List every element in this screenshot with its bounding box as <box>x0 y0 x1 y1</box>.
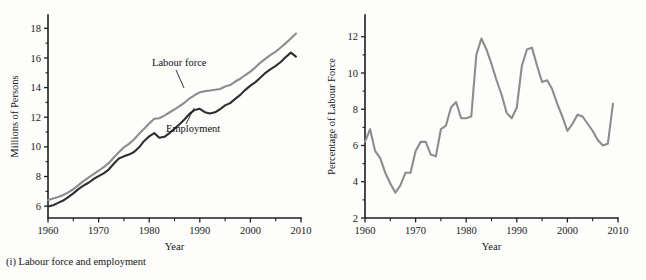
y-tick-label: 12 <box>348 31 359 42</box>
y-tick-label: 8 <box>36 171 41 182</box>
x-tick-label: 2000 <box>240 225 261 236</box>
x-tick-label: 1990 <box>189 225 210 236</box>
unemployment-rate-plot: 24681012196019701980199020002010YearPerc… <box>323 0 646 280</box>
chart-panel-unemployment-rate: 24681012196019701980199020002010YearPerc… <box>323 0 646 280</box>
axis-frame <box>48 15 301 218</box>
x-tick-label: 2000 <box>557 225 578 236</box>
x-tick-label: 1960 <box>355 225 376 236</box>
two-panel-figure: 681012141618196019701980199020002010Year… <box>0 0 646 280</box>
y-tick-label: 12 <box>31 112 42 123</box>
y-tick-label: 4 <box>353 176 359 187</box>
panel-caption-left: (i) Labour force and employment <box>6 256 146 267</box>
x-tick-label: 1970 <box>405 225 426 236</box>
y-tick-label: 16 <box>31 53 42 64</box>
x-tick-label: 1960 <box>38 225 59 236</box>
y-tick-label: 10 <box>31 141 42 152</box>
x-tick-label: 1970 <box>88 225 109 236</box>
x-axis-title: Year <box>165 241 185 252</box>
y-axis-title: Millions of Persons <box>9 75 20 157</box>
x-axis-title: Year <box>482 241 502 252</box>
chart-panel-labour-force-employment: 681012141618196019701980199020002010Year… <box>0 0 323 280</box>
x-tick-label: 2010 <box>608 225 629 236</box>
series-annotation-employment: Employment <box>166 123 220 134</box>
y-tick-label: 6 <box>353 140 358 151</box>
labour-force-employment-plot: 681012141618196019701980199020002010Year… <box>0 0 323 280</box>
x-tick-label: 1980 <box>139 225 160 236</box>
y-tick-label: 14 <box>31 82 42 93</box>
y-tick-label: 2 <box>353 213 358 224</box>
x-tick-label: 1990 <box>506 225 527 236</box>
y-tick-label: 18 <box>31 23 42 34</box>
x-tick-label: 1980 <box>456 225 477 236</box>
x-tick-label: 2010 <box>291 225 312 236</box>
series-annotation-labour-force: Labour force <box>152 57 207 68</box>
series-line-unemployment-rate <box>365 39 613 193</box>
leader-line-labour-force <box>176 70 184 88</box>
y-tick-label: 8 <box>353 104 358 115</box>
y-tick-label: 6 <box>36 201 41 212</box>
y-axis-title: Percentage of Labour Force <box>326 58 337 175</box>
y-tick-label: 10 <box>348 68 359 79</box>
